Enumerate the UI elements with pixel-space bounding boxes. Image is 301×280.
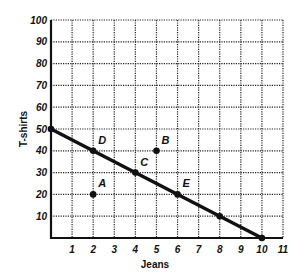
point-marker [153, 148, 160, 155]
x-tick-label: 5 [154, 244, 160, 255]
x-tick-labels: 1234567891011 [69, 244, 288, 255]
x-tick-label: 10 [256, 244, 268, 255]
point-label-d: D [98, 134, 106, 146]
y-tick-label: 20 [35, 189, 48, 200]
grid-lines [51, 20, 283, 238]
x-tick-label: 3 [111, 244, 117, 255]
ppf-chart: 102030405060708090100 1234567891011 DCEA… [0, 0, 301, 280]
point-label-c: C [140, 156, 149, 168]
point-label-b: B [161, 134, 169, 146]
point-marker [174, 191, 181, 198]
x-tick-label: 11 [278, 244, 289, 255]
x-tick-label: 7 [196, 244, 202, 255]
y-tick-label: 40 [35, 145, 48, 156]
y-tick-label: 90 [36, 36, 48, 47]
x-axis-title: Jeans [141, 259, 170, 270]
point-label-a: A [97, 177, 106, 189]
point-marker [48, 126, 55, 133]
x-tick-label: 8 [217, 244, 223, 255]
point-marker [216, 213, 223, 220]
y-tick-label: 100 [30, 15, 47, 26]
x-tick-label: 1 [69, 244, 75, 255]
y-tick-label: 50 [36, 124, 48, 135]
y-tick-label: 60 [36, 102, 48, 113]
y-tick-label: 10 [36, 211, 48, 222]
y-tick-label: 70 [36, 80, 48, 91]
point-marker [90, 148, 97, 155]
x-tick-label: 6 [175, 244, 181, 255]
x-tick-label: 4 [132, 244, 139, 255]
y-tick-label: 80 [36, 58, 48, 69]
x-tick-label: 9 [238, 244, 244, 255]
point-marker [259, 235, 266, 242]
point-label-e: E [183, 177, 191, 189]
y-tick-labels: 102030405060708090100 [30, 15, 47, 222]
y-axis-title: T-shirts [18, 111, 29, 148]
x-tick-label: 2 [89, 244, 96, 255]
point-marker [90, 191, 97, 198]
y-tick-label: 30 [36, 167, 48, 178]
point-marker [132, 169, 139, 176]
